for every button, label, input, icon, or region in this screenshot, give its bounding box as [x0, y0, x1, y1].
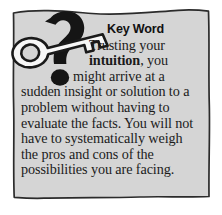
art-wrap-spacer-1: [21, 21, 107, 37]
emphasis-word: intuition: [89, 52, 140, 68]
art-wrap-spacer-4: [21, 68, 73, 84]
callout-text-block: Key Word Trusting your intuition, you mi…: [17, 18, 203, 203]
key-word-callout-figure: Key Word Trusting your intuition, you mi…: [0, 0, 222, 215]
art-wrap-spacer-2: [21, 37, 89, 53]
key-word-heading: Key Word: [107, 22, 164, 36]
art-wrap-spacer-3: [21, 52, 89, 68]
